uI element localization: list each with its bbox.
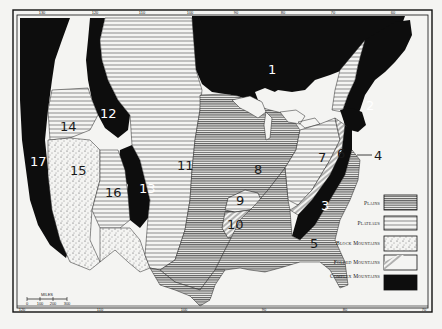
legend-swatch-plains <box>384 195 417 210</box>
region-label-15: 15 <box>70 163 87 178</box>
legend-label-plateaus: Plateaus <box>358 220 380 226</box>
lon-bottom-3: 90 <box>262 307 267 312</box>
region-label-10: 10 <box>227 217 244 232</box>
scale-bar-label: MILES <box>41 292 53 297</box>
region-label-6: 6 <box>337 146 345 161</box>
legend-label-block-mountains: Block Mountains <box>336 240 380 246</box>
region-label-13: 13 <box>139 181 156 196</box>
lon-top-0: 130 <box>39 10 46 15</box>
lon-bottom-0: 120 <box>19 307 26 312</box>
lon-top-5: 80 <box>281 10 286 15</box>
region-label-5: 5 <box>310 236 318 251</box>
lon-top-1: 120 <box>92 10 99 15</box>
legend-label-complex-mountains: Complex Mountains <box>330 273 380 279</box>
region-label-1: 1 <box>268 62 276 77</box>
lon-bottom-4: 80 <box>343 307 348 312</box>
region-label-8: 8 <box>254 162 262 177</box>
region-label-3: 3 <box>321 198 329 213</box>
region-label-14: 14 <box>60 119 77 134</box>
legend-swatch-complex-mountains <box>384 275 417 290</box>
scale-tick-100: 100 <box>37 301 44 306</box>
scale-tick-300: 300 <box>64 301 71 306</box>
scale-tick-200: 200 <box>50 301 57 306</box>
region-label-12: 12 <box>100 106 117 121</box>
lon-top-4: 90 <box>234 10 239 15</box>
region-label-7: 7 <box>318 150 326 165</box>
region-label-9: 9 <box>236 193 244 208</box>
top-longitude-labels: 130 120 110 100 90 80 70 60 <box>39 10 396 15</box>
lon-top-7: 60 <box>391 10 396 15</box>
legend-label-folded-mountains: Folded Mountains <box>334 259 380 265</box>
region-label-4: 4 <box>374 148 382 163</box>
region-label-11: 11 <box>177 158 194 173</box>
legend-swatch-plateaus <box>384 216 417 230</box>
lon-bottom-5: 70 <box>422 307 427 312</box>
legend-swatch-block-mountains <box>384 236 417 251</box>
lon-bottom-1: 110 <box>97 307 104 312</box>
region-label-16: 16 <box>105 185 122 200</box>
region-label-17: 17 <box>30 154 47 169</box>
lon-bottom-2: 100 <box>181 307 188 312</box>
lon-top-6: 70 <box>331 10 336 15</box>
lon-top-2: 110 <box>139 10 146 15</box>
legend-label-plains: Plains <box>364 200 380 206</box>
lon-top-3: 100 <box>187 10 194 15</box>
region-label-2: 2 <box>366 98 374 113</box>
physiographic-map: 1 2 3 4 5 6 7 8 9 10 11 12 13 14 15 16 1… <box>0 0 442 329</box>
